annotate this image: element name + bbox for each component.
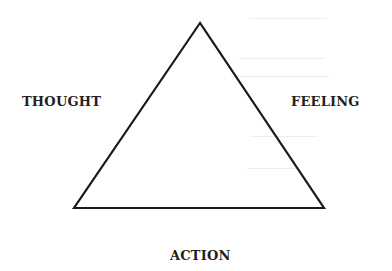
feeling-label: FEELING (291, 95, 360, 109)
action-label: ACTION (170, 249, 231, 263)
triangle-shape (74, 23, 324, 208)
thought-label: THOUGHT (22, 95, 101, 109)
triangle-diagram (0, 0, 392, 271)
